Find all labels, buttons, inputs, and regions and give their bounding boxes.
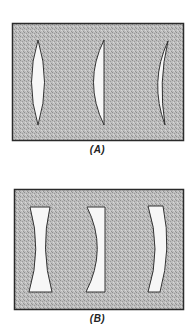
panel-b bbox=[15, 190, 184, 310]
lens-diagram bbox=[0, 0, 195, 331]
panel-a-caption: (A) bbox=[0, 144, 195, 155]
panel-a bbox=[13, 24, 184, 141]
panel-b-caption: (B) bbox=[0, 313, 195, 324]
